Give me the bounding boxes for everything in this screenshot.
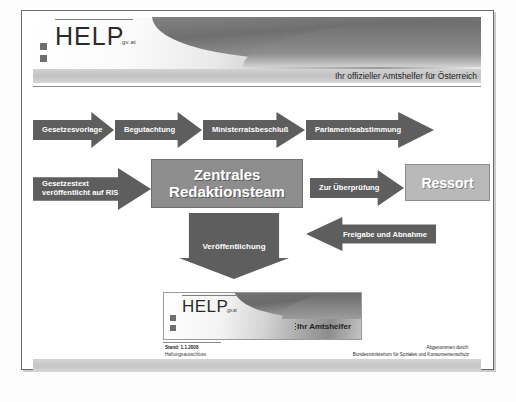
result-banner-logo-underline xyxy=(182,295,236,296)
flow-arrow-freigabe-abnahme-label: Freigabe und Abnahme xyxy=(343,230,436,239)
flow-arrow-gesetzestext-ris-label: Gesetzestext veröffentlicht auf RIS xyxy=(33,180,118,197)
footer-disclaimer-link[interactable]: Haftungsausschluss xyxy=(165,352,206,359)
box-zentrales-redaktionsteam: Zentrales Redaktionsteam xyxy=(151,159,303,208)
presentation-slide: HELP .gv.at Ihr offizieller Amtshelfer f… xyxy=(21,10,494,370)
box-zentrales-redaktionsteam-line1: Zentrales xyxy=(194,166,261,183)
result-banner-underline xyxy=(163,342,221,343)
footer-approved-by-ministry: Bundesministerium für Soziales und Konsu… xyxy=(353,352,469,359)
flow-arrow-zur-ueberpruefung: Zur Überprüfung xyxy=(310,170,404,206)
help-header-banner: HELP .gv.at xyxy=(33,17,481,69)
flow-arrow-zur-ueberpruefung-label: Zur Überprüfung xyxy=(310,184,379,193)
footer-right: Abgenommen durch: Bundesministerium für … xyxy=(353,345,469,359)
flow-arrow-veroeffentlichung-label: Veröffentlichung xyxy=(179,242,289,251)
flow-arrow-gesetzestext-ris-line2: veröffentlicht auf RIS xyxy=(42,188,118,197)
flow-arrow-freigabe-abnahme: Freigabe und Abnahme xyxy=(306,217,436,251)
flow-arrow-ministerratsbeschluss-label: Ministerratsbeschluß xyxy=(203,126,285,135)
flow-arrow-gesetzestext-ris: Gesetzestext veröffentlicht auf RIS xyxy=(33,168,151,210)
result-help-logo-suffix: .gv.at xyxy=(226,308,237,313)
result-banner-square-marker-2 xyxy=(170,325,176,331)
banner-square-marker-1 xyxy=(40,43,47,50)
banner-square-marker-2 xyxy=(40,55,47,62)
footer-left: Stand: 1.1.2008 Haftungsausschluss xyxy=(165,345,206,359)
help-logo-suffix: .gv.at xyxy=(120,39,136,45)
result-banner-square-marker-1 xyxy=(170,315,176,321)
footer-grey-band xyxy=(33,359,481,372)
flow-arrow-begutachtung: Begutachtung xyxy=(115,112,202,148)
result-banner-slogan: Ihr Amtshelfer xyxy=(297,322,351,331)
flow-arrow-gesetzesvorlage: Gesetzesvorlage xyxy=(33,112,114,148)
flow-arrow-parlamentsabstimmung: Parlamentsabstimmung xyxy=(306,112,434,148)
result-help-banner: HELP .gv.at Ihr Amtshelfer xyxy=(163,292,362,340)
flow-arrow-gesetzesvorlage-label: Gesetzesvorlage xyxy=(33,126,100,135)
flow-arrow-parlamentsabstimmung-label: Parlamentsabstimmung xyxy=(306,126,401,135)
screenshot-canvas: HELP .gv.at Ihr offizieller Amtshelfer f… xyxy=(0,0,516,402)
flow-arrow-begutachtung-label: Begutachtung xyxy=(115,126,175,135)
banner-logo-underline xyxy=(55,19,133,20)
header-divider-line xyxy=(33,86,481,87)
footer-approved-by-label: Abgenommen durch: xyxy=(353,345,469,352)
result-help-logo-text: HELP xyxy=(182,297,228,317)
box-zentrales-redaktionsteam-line2: Redaktionsteam xyxy=(169,183,285,200)
header-tagline: Ihr offizieller Amtshelfer für Österreic… xyxy=(335,69,477,83)
help-logo-text: HELP xyxy=(55,22,124,51)
footer-stand-date: Stand: 1.1.2008 xyxy=(165,345,206,352)
flow-arrow-ministerratsbeschluss: Ministerratsbeschluß xyxy=(203,112,305,148)
flow-arrow-veroeffentlichung: Veröffentlichung xyxy=(179,213,289,279)
flow-arrow-gesetzestext-ris-line1: Gesetzestext xyxy=(42,179,89,188)
box-ressort: Ressort xyxy=(405,164,490,201)
box-ressort-label: Ressort xyxy=(421,175,473,191)
